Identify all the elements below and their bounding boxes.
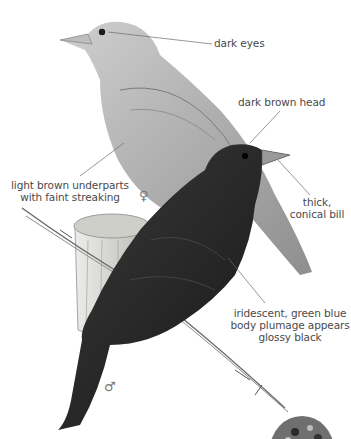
label-bill: thick, conical bill (282, 196, 351, 220)
egg (270, 416, 334, 439)
label-plumage-line3: glossy black (230, 331, 350, 343)
label-bill-line1: thick, (282, 196, 351, 208)
label-bill-line2: conical bill (282, 208, 351, 220)
leader-bill (278, 160, 310, 195)
label-dark-eyes: dark eyes (214, 37, 265, 49)
label-plumage: iridescent, green blue body plumage appe… (230, 307, 350, 343)
leader-underparts (80, 143, 124, 176)
male-symbol-icon: ♂ (104, 380, 116, 393)
label-underparts-line1: light brown underparts (10, 179, 130, 191)
label-underparts-line2: with faint streaking (10, 191, 130, 203)
label-plumage-line2: body plumage appears (230, 319, 350, 331)
label-plumage-line1: iridescent, green blue (230, 307, 350, 319)
label-dark-brown-head: dark brown head (238, 96, 325, 108)
label-underparts: light brown underparts with faint streak… (10, 179, 130, 203)
female-symbol-icon: ♀ (139, 189, 149, 202)
leader-dark-brown-head (250, 111, 280, 143)
leader-plumage (228, 258, 265, 303)
